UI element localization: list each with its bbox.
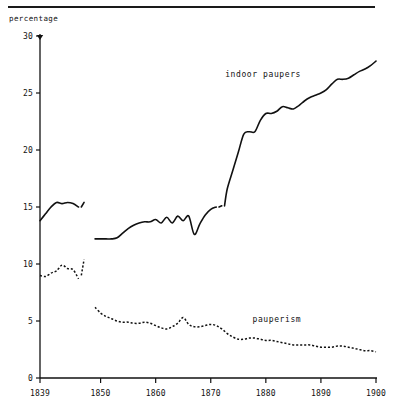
- axes-group: [40, 34, 377, 378]
- x-tick-label: 1880: [256, 389, 276, 398]
- series-line-pauperism: [95, 307, 376, 351]
- y-tick-label: 25: [23, 89, 33, 98]
- y-tick-label: 10: [23, 260, 33, 269]
- annotation-pauperism: pauperism: [252, 315, 301, 324]
- x-tick-label: 1890: [311, 389, 331, 398]
- figure-container: percentage 051015202530 1839185018601870…: [0, 0, 398, 419]
- x-axis-ticks: 1839185018601870188018901900: [30, 378, 386, 398]
- line-chart-plot: 051015202530 183918501860187018801890190…: [0, 0, 398, 419]
- y-tick-label: 20: [23, 146, 33, 155]
- series-line-indoor-paupers: [219, 206, 222, 207]
- x-tick-label: 1900: [366, 389, 386, 398]
- y-axis-cap: [37, 35, 43, 40]
- annotation-indoor-paupers: indoor paupers: [225, 70, 301, 79]
- x-tick-label: 1839: [30, 389, 50, 398]
- y-tick-label: 15: [23, 203, 33, 212]
- series-line-pauperism: [40, 265, 79, 279]
- series-line-pauperism: [81, 259, 84, 275]
- data-series-group: [40, 61, 376, 352]
- series-line-indoor-paupers: [40, 202, 79, 220]
- series-line-indoor-paupers: [81, 202, 84, 207]
- y-tick-label: 5: [28, 317, 33, 326]
- x-tick-label: 1850: [91, 389, 111, 398]
- x-tick-label: 1870: [201, 389, 221, 398]
- series-line-indoor-paupers: [225, 61, 376, 206]
- y-tick-label: 0: [28, 374, 33, 383]
- y-tick-label: 30: [23, 32, 33, 41]
- x-tick-label: 1860: [146, 389, 166, 398]
- series-line-indoor-paupers: [95, 207, 216, 239]
